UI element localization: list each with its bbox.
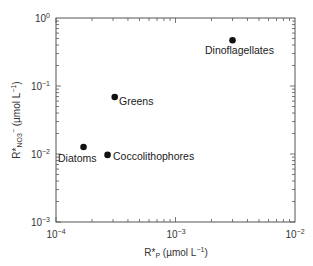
x-tick-label-1e-2: 10−2 <box>285 228 304 240</box>
y-tick-label-1e-3: 10−3 <box>31 216 50 228</box>
data-point-dinoflagellates <box>229 37 236 44</box>
data-point-coccolithophores <box>104 152 111 159</box>
x-tick-labels: 10−4 10−3 10−2 <box>46 228 304 240</box>
y-tick-label-1e0: 100 <box>35 12 50 24</box>
y-axis-title: R*NO3− (µmol L−1) <box>10 81 23 158</box>
point-label-coccolithophores: Coccolithophores <box>113 150 194 162</box>
data-point-diatoms <box>80 144 87 151</box>
data-point-greens <box>111 94 118 101</box>
x-tick-label-1e-3: 10−3 <box>166 228 185 240</box>
point-label-greens: Greens <box>119 95 153 107</box>
y-tick-labels: 100 10−1 10−2 10−3 <box>31 12 50 228</box>
y-tick-label-1e-1: 10−1 <box>31 80 50 92</box>
point-label-diatoms: Diatoms <box>58 152 97 164</box>
point-label-dinoflagellates: Dinoflagellates <box>205 44 274 56</box>
scatter-chart: 100 10−1 10−2 10−3 10−4 10−3 10−2 R*P (µ… <box>0 0 313 266</box>
x-tick-label-1e-4: 10−4 <box>46 228 65 240</box>
y-tick-label-1e-2: 10−2 <box>31 148 50 160</box>
x-axis-title: R*P (µmol L−1) <box>144 246 207 259</box>
